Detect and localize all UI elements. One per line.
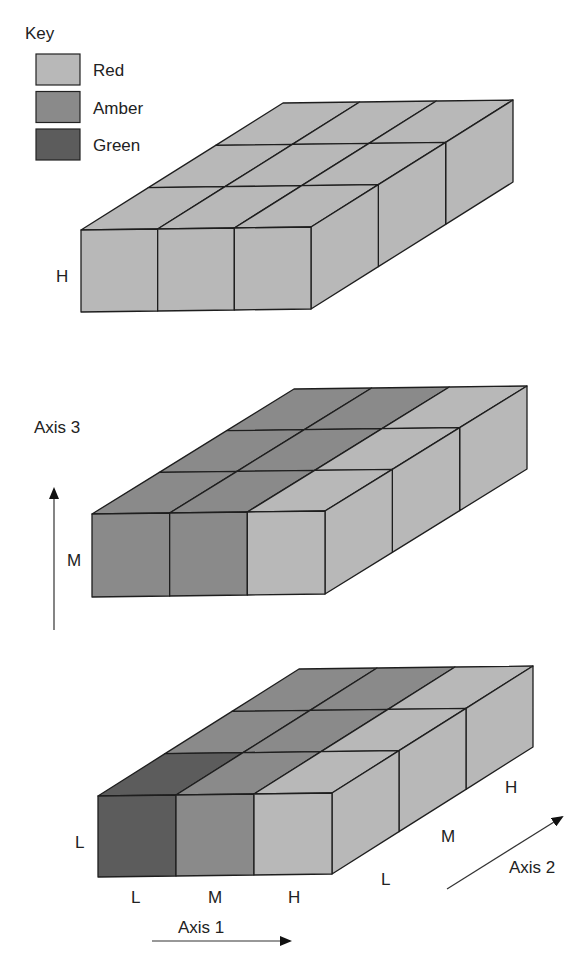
cell-front-H	[234, 227, 311, 310]
cell-front-L	[98, 795, 176, 877]
axis2-arrow-icon	[447, 817, 562, 889]
axis1-tick-l: L	[131, 888, 140, 907]
axis1-tick-h: H	[288, 888, 300, 907]
cell-front-H	[247, 511, 325, 595]
cell-front-M	[158, 228, 235, 311]
cell-front-M	[176, 794, 254, 876]
slabs	[81, 100, 533, 877]
legend-swatch-amber	[36, 92, 80, 123]
axis2: Axis 2	[447, 817, 562, 889]
legend-label-amber: Amber	[93, 99, 143, 118]
axis2-tick-h: H	[505, 778, 517, 797]
axis1-label: Axis 1	[178, 918, 224, 937]
axis1: Axis 1	[152, 918, 290, 941]
slab-axis3-l	[98, 666, 533, 877]
axis2-tick-m: M	[441, 827, 455, 846]
cell-front-L	[81, 229, 158, 312]
cell-front-M	[170, 512, 248, 596]
legend-swatch-red	[36, 54, 80, 85]
legend-label-green: Green	[93, 136, 140, 155]
legend-title: Key	[25, 24, 55, 43]
legend-label-red: Red	[93, 61, 124, 80]
axis3-tick-m: M	[67, 551, 81, 570]
axis2-tick-l: L	[381, 870, 390, 889]
axis3-tick-l: L	[75, 833, 84, 852]
cell-front-L	[92, 513, 170, 597]
axis3-label: Axis 3	[34, 418, 80, 437]
axis2-label: Axis 2	[509, 858, 555, 877]
cell-front-H	[254, 793, 332, 875]
legend: Key RedAmberGreen	[25, 24, 143, 160]
rag-cube-diagram: Key RedAmberGreen Axis 3 H M L L M H Axi…	[0, 0, 587, 965]
axis3: Axis 3	[34, 418, 80, 630]
axis1-tick-m: M	[208, 888, 222, 907]
slab-axis3-m	[92, 386, 527, 597]
slab-axis3-h	[81, 100, 513, 312]
legend-swatch-green	[36, 129, 80, 160]
axis3-tick-h: H	[56, 267, 68, 286]
